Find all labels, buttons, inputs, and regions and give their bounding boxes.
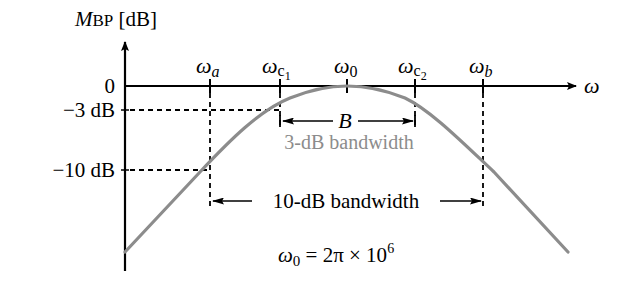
x-tick-label-omega-0: ω0 bbox=[334, 53, 358, 80]
y-tick-label-minus3: −3 dB bbox=[63, 98, 115, 122]
three-db-bandwidth-label: 3-dB bandwidth bbox=[284, 131, 413, 153]
y-tick-label-0: 0 bbox=[105, 74, 116, 98]
x-tick-label-omega-b: ωb bbox=[469, 53, 493, 80]
center-frequency-equation: ω0 = 2π × 106 bbox=[278, 241, 394, 269]
x-tick-label-omega-c2: ωc2 bbox=[398, 53, 427, 83]
bandpass-diagram: MBP [dB] ω 0 −3 dB −10 dB ωa ωc1 ω0 ωc2 … bbox=[0, 0, 637, 293]
y-axis-label: MBP [dB] bbox=[74, 7, 157, 31]
x-axis-label: ω bbox=[584, 73, 600, 98]
x-tick-label-omega-c1: ωc1 bbox=[262, 53, 291, 83]
bandwidth-b-label: B bbox=[338, 108, 351, 133]
ten-db-bandwidth-label: 10-dB bandwidth bbox=[273, 189, 420, 213]
y-tick-label-minus10: −10 dB bbox=[52, 158, 115, 182]
x-tick-label-omega-a: ωa bbox=[196, 53, 220, 80]
